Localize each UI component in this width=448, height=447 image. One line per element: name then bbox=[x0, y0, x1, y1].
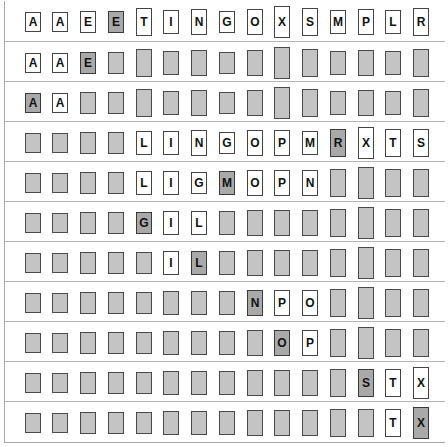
key-cell: O bbox=[274, 330, 290, 356]
key-cell bbox=[52, 253, 68, 273]
key-cell bbox=[274, 87, 290, 119]
key-cell: G bbox=[191, 172, 207, 194]
key-cell bbox=[247, 330, 263, 356]
key-cell bbox=[413, 89, 429, 117]
key-cell: P bbox=[274, 130, 290, 156]
key-cell bbox=[108, 212, 124, 234]
key-cell bbox=[191, 411, 207, 435]
key-cell: P bbox=[302, 330, 318, 356]
key-cell: S bbox=[302, 8, 318, 36]
trace-row: STX bbox=[5, 361, 445, 401]
key-cell bbox=[219, 211, 235, 235]
key-cell: M bbox=[302, 131, 318, 155]
trace-row: AAE bbox=[5, 41, 445, 81]
key-cell bbox=[108, 52, 124, 74]
trace-row: IL bbox=[5, 241, 445, 281]
key-cell bbox=[80, 372, 96, 394]
key-cell: X bbox=[413, 367, 429, 399]
key-cell bbox=[108, 332, 124, 354]
key-cell bbox=[219, 52, 235, 74]
key-cell: I bbox=[163, 211, 179, 235]
key-cell: G bbox=[219, 132, 235, 154]
key-cell: I bbox=[163, 131, 179, 155]
key-cell bbox=[385, 249, 401, 277]
key-cell bbox=[52, 293, 68, 313]
trace-row: AAEETINGOXSMPLR bbox=[5, 1, 445, 41]
trace-row: TX bbox=[5, 401, 445, 441]
key-cell bbox=[108, 412, 124, 434]
key-cell bbox=[191, 50, 207, 76]
key-cell bbox=[247, 210, 263, 236]
key-cell bbox=[25, 293, 41, 313]
key-cell bbox=[25, 413, 41, 433]
key-cell: E bbox=[80, 11, 96, 33]
key-cell bbox=[80, 172, 96, 194]
key-cell: N bbox=[302, 170, 318, 196]
key-cell bbox=[219, 371, 235, 395]
key-cell bbox=[385, 329, 401, 357]
key-cell bbox=[25, 373, 41, 393]
key-cell bbox=[108, 372, 124, 394]
key-cell bbox=[302, 410, 318, 436]
trace-row: GIL bbox=[5, 201, 445, 241]
key-cell bbox=[358, 167, 374, 199]
key-cell bbox=[136, 252, 152, 274]
key-cell: A bbox=[25, 93, 41, 113]
key-cell: P bbox=[358, 9, 374, 35]
key-cell bbox=[25, 173, 41, 193]
key-cell: A bbox=[25, 12, 41, 32]
key-cell bbox=[25, 253, 41, 273]
key-cell: L bbox=[191, 211, 207, 235]
key-cell: L bbox=[385, 10, 401, 34]
key-cell bbox=[358, 50, 374, 76]
key-cell: X bbox=[358, 127, 374, 159]
key-cell bbox=[136, 89, 152, 117]
key-cell bbox=[219, 291, 235, 315]
key-cell bbox=[219, 92, 235, 114]
trace-row: NPO bbox=[5, 281, 445, 321]
key-cell: L bbox=[136, 171, 152, 195]
key-cell: P bbox=[274, 170, 290, 196]
key-cell: T bbox=[385, 409, 401, 437]
key-cell bbox=[52, 133, 68, 153]
key-cell: S bbox=[413, 129, 429, 157]
key-cell: E bbox=[80, 52, 96, 74]
key-cell bbox=[163, 51, 179, 75]
key-cell: R bbox=[413, 8, 429, 36]
key-cell bbox=[191, 371, 207, 395]
key-cell: N bbox=[191, 9, 207, 35]
key-cell: X bbox=[274, 6, 290, 38]
key-cell bbox=[385, 289, 401, 317]
key-cell: E bbox=[108, 11, 124, 33]
key-cell: O bbox=[247, 9, 263, 35]
key-cell bbox=[385, 169, 401, 197]
key-cell: L bbox=[136, 131, 152, 155]
key-cell: T bbox=[385, 369, 401, 397]
key-cell bbox=[385, 91, 401, 115]
key-cell bbox=[52, 213, 68, 233]
key-cell bbox=[413, 289, 429, 317]
key-cell bbox=[274, 250, 290, 276]
key-cell bbox=[330, 329, 346, 357]
key-cell bbox=[163, 411, 179, 435]
key-cell bbox=[358, 409, 374, 437]
trace-grid: AAEETINGOXSMPLRAAEAALINGOPMRXTSLIGMOPNGI… bbox=[4, 1, 445, 443]
key-cell: O bbox=[247, 130, 263, 156]
key-cell bbox=[108, 92, 124, 114]
key-cell bbox=[136, 292, 152, 314]
key-cell bbox=[219, 251, 235, 275]
key-cell: T bbox=[136, 8, 152, 36]
key-cell bbox=[219, 331, 235, 355]
key-cell bbox=[52, 333, 68, 353]
key-cell bbox=[52, 173, 68, 193]
key-cell bbox=[163, 371, 179, 395]
key-cell bbox=[413, 249, 429, 277]
key-cell bbox=[108, 132, 124, 154]
key-cell: G bbox=[136, 212, 152, 234]
key-cell bbox=[358, 247, 374, 279]
key-cell bbox=[25, 133, 41, 153]
key-cell bbox=[25, 213, 41, 233]
key-cell: S bbox=[358, 369, 374, 397]
key-cell bbox=[191, 291, 207, 315]
key-cell bbox=[358, 287, 374, 319]
